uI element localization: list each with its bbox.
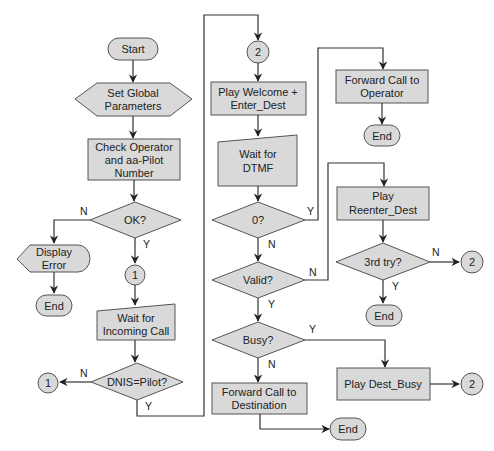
connector-1: 1 — [125, 265, 145, 285]
svg-text:Display: Display — [36, 246, 73, 258]
dnis-pilot-decision: DNIS=Pilot? — [91, 363, 183, 400]
svg-text:Operator: Operator — [360, 87, 404, 99]
svg-text:Reenter_Dest: Reenter_Dest — [349, 204, 417, 216]
ok-decision: OK? — [90, 202, 181, 238]
valid-decision: Valid? — [212, 262, 305, 298]
svg-text:N: N — [309, 266, 317, 278]
svg-text:Y: Y — [268, 298, 275, 310]
svg-text:N: N — [268, 238, 276, 250]
busy-decision: Busy? — [212, 322, 305, 358]
end-terminal-destination: End — [330, 418, 366, 440]
svg-text:DTMF: DTMF — [243, 162, 274, 174]
connector-2-retry: 2 — [461, 251, 483, 273]
forward-call-destination: Forward Call to Destination — [212, 383, 307, 414]
svg-text:Parameters: Parameters — [105, 100, 162, 112]
svg-text:Busy?: Busy? — [243, 334, 274, 346]
svg-text:0?: 0? — [252, 214, 264, 226]
connector-2: 2 — [247, 41, 269, 63]
display-error: Display Error — [17, 245, 90, 272]
svg-text:N: N — [80, 205, 88, 217]
forward-call-operator: Forward Call to Operator — [336, 70, 428, 103]
svg-text:Forward Call to: Forward Call to — [222, 386, 297, 398]
svg-text:N: N — [432, 246, 440, 258]
svg-text:Wait for: Wait for — [239, 148, 277, 160]
svg-text:End: End — [338, 423, 358, 435]
svg-text:Number: Number — [114, 167, 153, 179]
svg-text:Play Dest_Busy: Play Dest_Busy — [344, 378, 422, 390]
svg-text:End: End — [372, 130, 392, 142]
svg-text:Y: Y — [143, 238, 150, 250]
check-operator-process: Check Operator and aa-Pilot Number — [88, 139, 180, 180]
flowchart: Start Set Global Parameters Check Operat… — [0, 0, 494, 451]
play-reenter-dest: Play Reenter_Dest — [337, 187, 429, 220]
svg-text:Forward Call to: Forward Call to — [345, 74, 420, 86]
play-welcome-process: Play Welcome + Enter_Dest — [211, 82, 306, 115]
connector-2-busy: 2 — [461, 373, 483, 395]
wait-dtmf: Wait for DTMF — [218, 135, 297, 186]
svg-text:Wait for: Wait for — [117, 312, 155, 324]
zero-decision: 0? — [212, 202, 305, 238]
svg-text:2: 2 — [469, 256, 475, 268]
set-global-parameters: Set Global Parameters — [75, 83, 192, 116]
svg-text:N: N — [80, 367, 88, 379]
svg-text:2: 2 — [469, 378, 475, 390]
svg-text:Valid?: Valid? — [243, 274, 273, 286]
svg-text:3rd try?: 3rd try? — [364, 256, 401, 268]
svg-text:2: 2 — [255, 46, 261, 58]
svg-text:Y: Y — [145, 400, 152, 412]
svg-text:Play Welcome +: Play Welcome + — [218, 86, 298, 98]
svg-text:Incoming Call: Incoming Call — [103, 325, 170, 337]
svg-text:1: 1 — [45, 377, 51, 389]
start-terminal: Start — [108, 38, 158, 60]
svg-text:DNIS=Pilot?: DNIS=Pilot? — [107, 376, 167, 388]
connector-1-return: 1 — [38, 373, 58, 393]
svg-text:Y: Y — [309, 323, 316, 335]
svg-text:Enter_Dest: Enter_Dest — [230, 99, 285, 111]
third-try-decision: 3rd try? — [336, 243, 430, 280]
svg-text:Y: Y — [392, 280, 399, 292]
svg-text:Y: Y — [307, 205, 314, 217]
svg-text:Play: Play — [372, 190, 394, 202]
end-terminal-error: End — [36, 295, 72, 316]
svg-text:1: 1 — [132, 269, 138, 281]
wait-incoming-call: Wait for Incoming Call — [97, 304, 175, 340]
svg-text:N: N — [268, 358, 276, 370]
svg-text:OK?: OK? — [124, 214, 146, 226]
svg-text:Error: Error — [42, 259, 67, 271]
svg-text:Set Global: Set Global — [107, 87, 158, 99]
svg-text:Check Operator: Check Operator — [95, 141, 173, 153]
end-terminal-operator: End — [364, 125, 400, 146]
end-terminal-retry: End — [366, 305, 402, 326]
svg-text:Start: Start — [121, 43, 144, 55]
svg-text:Destination: Destination — [231, 399, 286, 411]
play-dest-busy: Play Dest_Busy — [337, 368, 430, 400]
svg-text:End: End — [374, 310, 394, 322]
svg-text:End: End — [44, 300, 64, 312]
svg-text:and aa-Pilot: and aa-Pilot — [105, 154, 164, 166]
